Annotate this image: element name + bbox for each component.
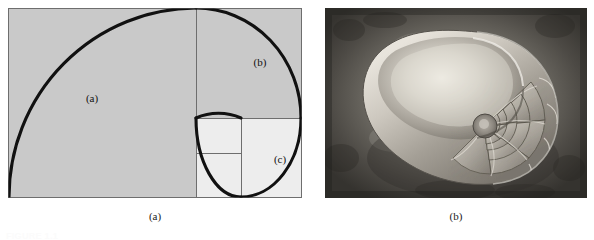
figure-container: (a) (b) (c): [0, 0, 594, 240]
diagram-label-c: (c): [274, 153, 287, 166]
square-a: [9, 9, 197, 198]
diagram-label-b: (b): [254, 56, 267, 69]
nautilus-shell-image: [325, 8, 587, 198]
panel-a-golden-spiral-diagram: (a) (b) (c): [8, 8, 302, 198]
square-e: [197, 119, 242, 154]
caption-panel-b: (b): [325, 210, 587, 222]
figure-number-label: FIGURE 1.1: [6, 231, 58, 240]
golden-spiral-svg: (a) (b) (c): [8, 8, 302, 198]
shell-core-center: [479, 119, 489, 129]
diagram-label-a: (a): [86, 92, 99, 105]
caption-panel-a: (a): [0, 210, 310, 222]
panel-b-nautilus-photograph: [325, 8, 587, 198]
